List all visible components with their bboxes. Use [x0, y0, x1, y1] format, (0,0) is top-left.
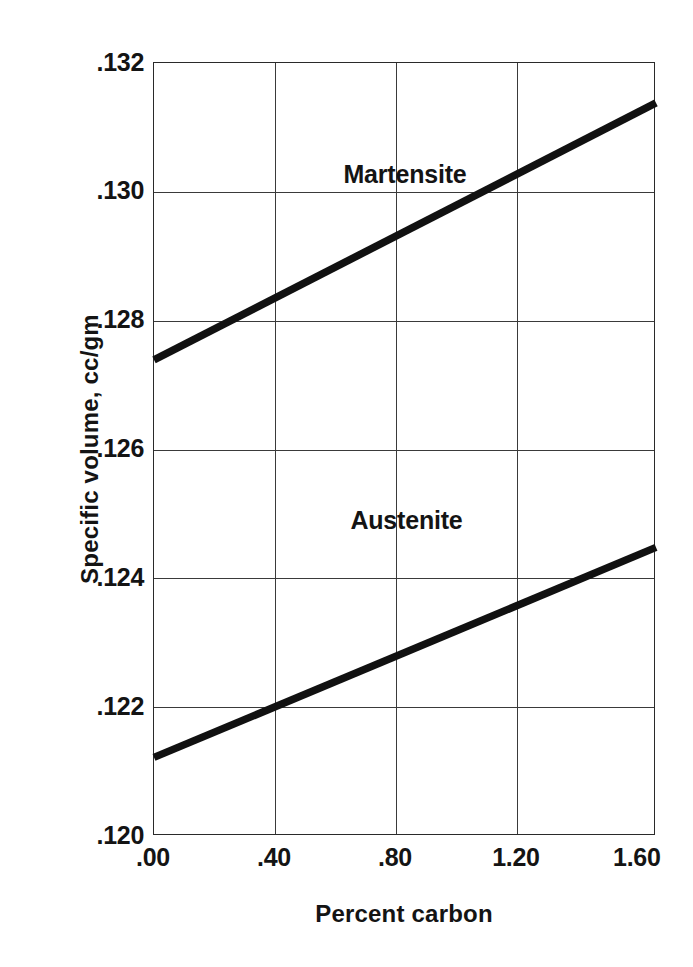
- x-axis-title: Percent carbon: [153, 900, 655, 928]
- y-axis-title: Specific volume, cc/gm: [76, 59, 104, 839]
- series-line-austenite: [154, 547, 656, 757]
- chart-figure: .132.130.128.126.124.122.120 MartensiteA…: [0, 0, 693, 967]
- x-tick-label: 1.60: [577, 845, 693, 870]
- x-tick-label: 1.20: [456, 845, 576, 870]
- x-tick-label: .80: [335, 845, 455, 870]
- x-tick-label: .00: [93, 845, 213, 870]
- x-axis-tick-labels: .00.40.801.201.60: [153, 845, 655, 885]
- plot-area: MartensiteAustenite: [153, 62, 655, 835]
- series-label-austenite: Austenite: [350, 506, 462, 535]
- series-line-martensite: [154, 103, 656, 360]
- x-tick-label: .40: [214, 845, 334, 870]
- series-label-martensite: Martensite: [343, 159, 466, 188]
